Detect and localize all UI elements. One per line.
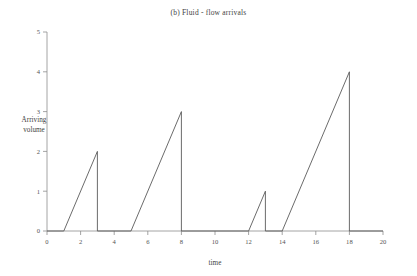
x-axis-ticks [47, 231, 383, 235]
x-tick-label: 16 [313, 238, 320, 245]
y-tick-label: 4 [37, 68, 41, 75]
y-tick-label: 1 [37, 188, 40, 195]
x-tick-label: 10 [212, 238, 219, 245]
x-axis-title: time [209, 259, 222, 267]
x-axis-tick-labels: 0 2 4 6 8 10 12 14 16 18 20 [45, 238, 387, 245]
fluid-flow-arrivals-plot: 0 1 2 3 4 5 0 2 4 6 8 10 [0, 0, 417, 276]
y-axis-title-line1: Arriving [22, 116, 47, 124]
x-tick-label: 18 [346, 238, 353, 245]
arriving-volume-series [47, 72, 383, 231]
x-tick-label: 0 [45, 238, 49, 245]
y-axis-title-line2: volume [23, 126, 45, 134]
x-tick-label: 14 [279, 238, 286, 245]
y-tick-label: 2 [37, 148, 40, 155]
x-tick-label: 8 [180, 238, 184, 245]
x-tick-label: 20 [380, 238, 387, 245]
x-tick-label: 6 [146, 238, 150, 245]
chart-figure: (b) Fluid - flow arrivals 0 1 2 3 4 5 [0, 0, 417, 276]
x-tick-label: 4 [113, 238, 117, 245]
y-tick-label: 3 [37, 108, 41, 115]
x-tick-label: 2 [79, 238, 82, 245]
x-tick-label: 12 [245, 238, 252, 245]
y-tick-label: 0 [37, 227, 41, 234]
y-tick-label: 5 [37, 28, 41, 35]
